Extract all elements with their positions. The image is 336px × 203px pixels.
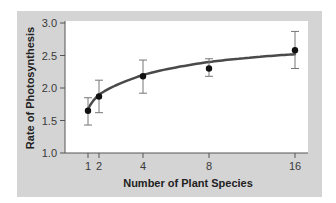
y-axis-title: Rate of Photosynthesis [24, 27, 36, 149]
y-tick-label: 1.0 [42, 147, 57, 159]
data-point [140, 73, 146, 79]
y-axis-ticks: 1.01.52.02.53.0 [42, 17, 65, 159]
x-tick-label: 4 [140, 160, 146, 172]
data-point [292, 47, 298, 53]
y-tick-label: 3.0 [42, 17, 57, 29]
data-point [206, 65, 212, 71]
y-tick-label: 2.0 [42, 82, 57, 94]
x-tick-label: 2 [96, 160, 102, 172]
plot-area [65, 21, 308, 153]
x-axis-title: Number of Plant Species [123, 177, 253, 189]
y-tick-label: 2.5 [42, 50, 57, 62]
y-tick-label: 1.5 [42, 115, 57, 127]
data-point [96, 93, 102, 99]
data-point [85, 108, 91, 114]
x-tick-label: 8 [206, 160, 212, 172]
x-axis-ticks: 124816 [85, 153, 301, 172]
x-tick-label: 16 [289, 160, 301, 172]
x-tick-label: 1 [85, 160, 91, 172]
photosynthesis-chart: 1.01.52.02.53.0 124816 Number of Plant S… [0, 0, 336, 203]
